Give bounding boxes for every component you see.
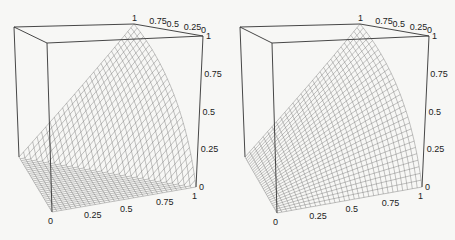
z-tick-label: 1 (432, 31, 437, 41)
y-tick-label: 0.25 (410, 22, 428, 32)
x-tick-label: 1 (418, 191, 423, 201)
tick-labels: 0010.250.250.750.50.50.50.750.750.25110 (273, 13, 448, 227)
bounding-box (240, 24, 360, 157)
x-tick-label: 0 (273, 217, 278, 227)
figure: 0010.250.250.750.50.50.50.750.750.25110 … (0, 0, 455, 240)
x-tick-label: 0.5 (346, 204, 359, 214)
y-tick-label: 0 (427, 25, 432, 35)
y-tick-label: 0.75 (375, 16, 393, 26)
z-tick-label: 0 (425, 182, 430, 192)
z-tick-label: 0.75 (430, 69, 448, 79)
y-tick-label: 0.5 (393, 19, 406, 29)
x-tick-label: 0.75 (382, 198, 400, 208)
x-tick-label: 0.25 (309, 211, 327, 221)
z-tick-label: 0.25 (427, 144, 445, 154)
surface-plot-right: 0010.250.250.750.50.50.50.750.750.25110 (0, 0, 455, 240)
y-tick-label: 1 (358, 13, 363, 23)
surface-mesh (245, 24, 422, 213)
z-tick-label: 0.5 (429, 107, 442, 117)
